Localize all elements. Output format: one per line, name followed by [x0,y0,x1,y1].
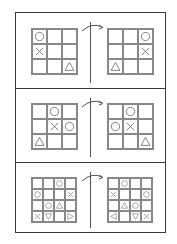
grid-cell [32,119,47,134]
grid-cell [119,211,130,222]
right-grid [107,28,154,75]
grid-cell [130,178,141,189]
grid-cell [119,189,130,200]
grid-cell [62,59,77,74]
grid-cell [108,189,119,200]
grid-cell [119,200,130,211]
grid-cell [54,178,65,189]
curved-arrow-icon [80,167,106,177]
curved-arrow-icon [80,17,106,27]
grid-cell [119,178,130,189]
grid-cell [62,119,77,134]
grid-cell [138,29,153,44]
grid-cell [108,104,123,119]
grid-cell [62,104,77,119]
grid-cell [43,178,54,189]
grid-cell [47,29,62,44]
grid-cell [108,44,123,59]
grid-cell [123,104,138,119]
right-grid [107,177,153,223]
grid-cell [123,44,138,59]
grid-cell [32,178,43,189]
grid-cell [138,134,153,149]
grid-cell [62,29,77,44]
grid-cell [32,200,43,211]
grid-cell [47,119,62,134]
grid-cell [108,29,123,44]
grid-cell [108,119,123,134]
grid-cell [108,200,119,211]
right-grid [107,103,154,150]
grid-cell [123,134,138,149]
grid-cell [47,59,62,74]
grid-cell [32,189,43,200]
grid-cell [43,211,54,222]
grid-cell [138,44,153,59]
grid-cell [65,211,76,222]
grid-cell [32,59,47,74]
grid-cell [65,200,76,211]
grid-cell [123,59,138,74]
grid-cell [141,200,152,211]
grid-cell [138,59,153,74]
grid-cell [138,104,153,119]
grid-cell [43,200,54,211]
grid-cell [32,211,43,222]
grid-cell [130,189,141,200]
grid-cell [32,134,47,149]
grid-cell [43,189,54,200]
grid-cell [62,134,77,149]
grid-cell [47,44,62,59]
grid-cell [141,211,152,222]
grid-cell [123,29,138,44]
grid-cell [108,59,123,74]
curved-arrow-icon [80,93,106,103]
grid-cell [138,119,153,134]
panel-separator [15,88,166,89]
grid-cell [62,44,77,59]
grid-cell [47,134,62,149]
grid-cell [141,178,152,189]
left-grid [31,103,78,150]
left-grid [31,177,77,223]
grid-cell [32,104,47,119]
grid-cell [65,189,76,200]
panel-separator [15,162,166,163]
grid-cell [123,119,138,134]
grid-cell [54,200,65,211]
grid-cell [32,44,47,59]
grid-cell [108,211,119,222]
grid-cell [54,189,65,200]
left-grid [31,28,78,75]
grid-cell [130,200,141,211]
grid-cell [141,189,152,200]
grid-cell [54,211,65,222]
grid-cell [32,29,47,44]
grid-cell [130,211,141,222]
grid-cell [108,134,123,149]
grid-cell [47,104,62,119]
grid-cell [108,178,119,189]
grid-cell [65,178,76,189]
